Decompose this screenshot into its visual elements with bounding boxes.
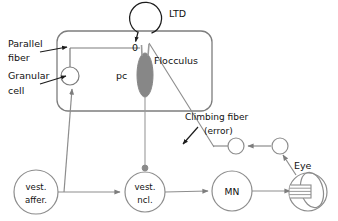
- vor-circuit-diagram: LTD Parallel fiber Granular cell 0 pc Fl…: [0, 0, 338, 221]
- parallel-fiber-leader: [40, 47, 67, 52]
- vest-ncl-label-line2: ncl.: [137, 195, 152, 205]
- purkinje-cell-label: pc: [116, 70, 127, 81]
- flocculus-label: Flocculus: [154, 55, 198, 66]
- ltd-arrow: [136, 32, 139, 42]
- vest-affer-label-line2: affer.: [25, 195, 47, 205]
- feedback-node-right: [272, 138, 288, 154]
- vestibular-to-granular-line: [64, 89, 72, 192]
- purkinje-dendrite-right: [148, 44, 149, 56]
- ltd-synapse-zero-label: 0: [132, 42, 138, 53]
- eye-label: Eye: [294, 160, 312, 171]
- motor-neuron-label: MN: [225, 186, 240, 197]
- parallel-fiber-label-line1: Parallel: [8, 38, 43, 49]
- ltd-loop: [130, 2, 162, 33]
- granular-cell-label-line2: cell: [8, 85, 24, 96]
- purkinje-dendrite-left: [142, 45, 143, 56]
- vest-ncl-node: [125, 172, 165, 212]
- vest-affer-node: [14, 170, 58, 214]
- diagram-canvas: LTD Parallel fiber Granular cell 0 pc Fl…: [0, 0, 338, 221]
- inhibitory-terminal: [142, 165, 148, 171]
- climbing-fiber-leader: [183, 127, 198, 144]
- climbing-fiber-label-line1: Climbing fiber: [185, 112, 248, 122]
- ltd-label: LTD: [169, 8, 186, 19]
- eye-muscle: [289, 185, 311, 198]
- climbing-fiber-label-line2: (error): [204, 126, 233, 136]
- feedback-node-left: [228, 138, 244, 154]
- nucleus-to-mn-line: [165, 191, 208, 192]
- parallel-fiber-label-line2: fiber: [8, 52, 30, 63]
- granular-cell-label-line1: Granular: [8, 70, 50, 81]
- vest-affer-label-line1: vest.: [26, 182, 47, 192]
- vest-ncl-label-line1: vest.: [135, 182, 156, 192]
- purkinje-cell-body: [137, 53, 153, 97]
- granular-cell-node: [61, 67, 79, 85]
